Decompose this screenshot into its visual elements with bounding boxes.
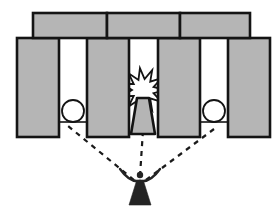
lintel-right (180, 13, 250, 38)
lintel-stones-group (33, 13, 250, 38)
upright-3 (158, 38, 200, 137)
observer-head (137, 172, 143, 178)
upright-4 (228, 38, 270, 137)
disc-left (62, 100, 84, 122)
disc-right (203, 100, 225, 122)
diagram-canvas: Stonehenge solstice alignment diagram Sc… (0, 0, 279, 211)
upright-2 (87, 38, 129, 137)
lintel-left (33, 13, 107, 38)
upright-1 (17, 38, 59, 137)
stonehenge-alignment-diagram: Stonehenge solstice alignment diagram Sc… (0, 0, 279, 211)
lintel-center (107, 13, 180, 38)
